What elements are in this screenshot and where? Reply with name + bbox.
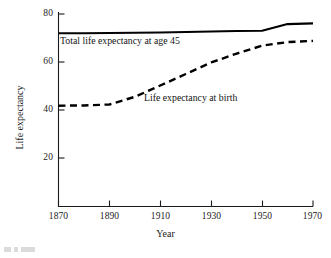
x-tick-label-1950: 1950: [242, 211, 283, 221]
annotation-life-expectancy-at-birth: Life expectancy at birth: [144, 92, 237, 103]
y-tick-label-80: 80: [30, 8, 53, 18]
life-expectancy-chart: 80 60 40 20 1870 1890 1910 1930 1950 197…: [0, 0, 331, 258]
x-tick-label-1970: 1970: [292, 211, 331, 221]
x-tick-label-1930: 1930: [191, 211, 232, 221]
x-axis-title: Year: [0, 228, 331, 239]
x-tick-label-1910: 1910: [140, 211, 181, 221]
x-tick-label-1870: 1870: [38, 211, 79, 221]
x-tick-label-1890: 1890: [89, 211, 130, 221]
series-line-total-at-45: [59, 23, 314, 33]
y-tick-label-40: 40: [30, 104, 53, 114]
y-tick-label-60: 60: [30, 56, 53, 66]
y-axis-title: Life expectancy: [14, 58, 25, 178]
x-axis-ticks: [59, 201, 314, 207]
page-scan-artifact: [4, 247, 74, 252]
y-tick-label-20: 20: [30, 152, 53, 162]
annotation-total-life-expectancy-at-45: Total life expectancy at age 45: [60, 35, 180, 46]
